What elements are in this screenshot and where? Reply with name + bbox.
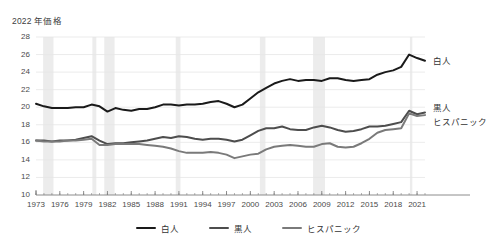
chart-legend: 白人黒人ヒスパニック bbox=[0, 222, 497, 234]
legend-swatch-icon bbox=[136, 227, 156, 230]
legend-item-1[interactable]: 白人 bbox=[136, 222, 179, 234]
series-end-label-1: 白人 bbox=[433, 56, 451, 66]
y-axis-tick-10: 10 bbox=[8, 191, 30, 199]
y-axis-tick-16: 16 bbox=[8, 138, 30, 146]
legend-item-3[interactable]: ヒスパニック bbox=[282, 222, 361, 234]
y-axis-tick-14: 14 bbox=[8, 156, 30, 164]
series-end-label-3: ヒスパニック bbox=[433, 117, 487, 127]
x-axis-tick-2021: 2021 bbox=[402, 201, 432, 209]
legend-label: ヒスパニック bbox=[307, 222, 361, 234]
series-end-label-2: 黒人 bbox=[433, 103, 451, 113]
y-axis-tick-20: 20 bbox=[8, 103, 30, 111]
legend-swatch-icon bbox=[209, 227, 229, 230]
y-axis-tick-26: 26 bbox=[8, 51, 30, 59]
legend-label: 白人 bbox=[161, 222, 179, 234]
y-axis-tick-24: 24 bbox=[8, 68, 30, 76]
legend-item-2[interactable]: 黒人 bbox=[209, 222, 252, 234]
y-axis-tick-12: 12 bbox=[8, 173, 30, 181]
y-axis-tick-22: 22 bbox=[8, 86, 30, 94]
y-axis-tick-18: 18 bbox=[8, 121, 30, 129]
chart-container: 2022 年価格 28262422201816141210 1973197619… bbox=[0, 0, 497, 245]
legend-label: 黒人 bbox=[234, 222, 252, 234]
y-axis-tick-28: 28 bbox=[8, 33, 30, 41]
legend-swatch-icon bbox=[282, 227, 302, 230]
